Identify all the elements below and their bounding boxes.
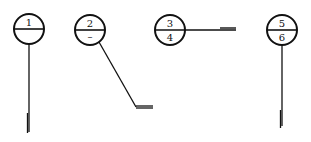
bottom-label: 4: [167, 32, 173, 43]
top-label: 5: [279, 18, 285, 29]
top-label: 1: [26, 17, 32, 28]
diagram-canvas: 1 2 – 3 4 5 6: [0, 0, 311, 142]
callout-diagram: 1 2 – 3 4 5 6: [0, 0, 311, 142]
callout-symbol-2: 2 –: [75, 15, 153, 108]
bottom-label: 6: [279, 32, 285, 43]
top-label: 2: [87, 18, 93, 29]
leader-line: [99, 42, 136, 107]
callout-symbol-3: 3 4: [155, 15, 236, 45]
bottom-label: –: [88, 31, 93, 42]
top-label: 3: [167, 18, 173, 29]
callout-symbol-4: 5 6: [267, 15, 297, 128]
callout-symbol-1: 1: [14, 14, 44, 133]
